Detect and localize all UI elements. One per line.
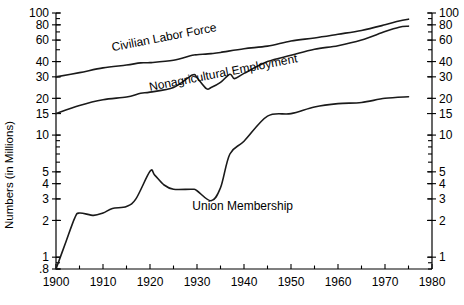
y-tick-label-left: 60: [36, 33, 50, 47]
series-annotations: Civilian Labor ForceNonagricultural Empl…: [110, 20, 299, 213]
series-line: [56, 97, 409, 269]
x-tick-label: 1950: [278, 275, 305, 289]
y-tick-label-right: 100: [439, 6, 459, 20]
y-axis-title-text: Numbers (in Millions): [3, 121, 15, 229]
y-tick-label-left: 1: [42, 250, 49, 264]
chart-container: .812345101520304060801001234510152030406…: [0, 0, 464, 305]
y-tick-label-left: 30: [36, 70, 50, 84]
y-tick-label-right: 3: [439, 192, 446, 206]
x-tick-label: 1900: [43, 275, 70, 289]
y-tick-label-right: 20: [439, 92, 453, 106]
series-label: Nonagricultural Employment: [148, 51, 299, 94]
y-tick-label-left: 40: [36, 55, 50, 69]
y-tick-label-left: 15: [36, 107, 50, 121]
series-label: Union Membership: [192, 199, 293, 213]
x-tick-label: 1920: [137, 275, 164, 289]
labor-statistics-line-chart: .812345101520304060801001234510152030406…: [0, 0, 464, 305]
x-tick-label: 1910: [90, 275, 117, 289]
y-tick-label-right: 1: [439, 250, 446, 264]
y-tick-label-left: 5: [42, 165, 49, 179]
y-tick-label-right: 15: [439, 107, 453, 121]
y-tick-label-right: 60: [439, 33, 453, 47]
y-tick-label-left: 20: [36, 92, 50, 106]
y-tick-label-right: 40: [439, 55, 453, 69]
y-tick-label-left: 10: [36, 128, 50, 142]
x-tick-label: 1960: [325, 275, 352, 289]
y-tick-label-right: 30: [439, 70, 453, 84]
y-tick-label-right: 2: [439, 214, 446, 228]
y-tick-label-right: 5: [439, 165, 446, 179]
x-tick-label: 1930: [184, 275, 211, 289]
y-tick-label-left: 2: [42, 214, 49, 228]
y-tick-label-right: 10: [439, 128, 453, 142]
x-tick-label: 1980: [419, 275, 446, 289]
data-series: [56, 19, 409, 269]
x-tick-label: 1970: [372, 275, 399, 289]
series-label: Civilian Labor Force: [110, 20, 218, 54]
x-tick-label: 1940: [231, 275, 258, 289]
y-tick-label-left: 3: [42, 192, 49, 206]
y-tick-label-left: 100: [29, 6, 49, 20]
y-axis-title: Numbers (in Millions): [3, 121, 15, 229]
